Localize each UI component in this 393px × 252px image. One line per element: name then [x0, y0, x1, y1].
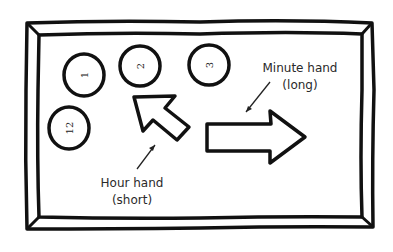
hour-hand-name: Hour hand [90, 175, 174, 192]
number-circle-12: 12 [49, 107, 89, 149]
number-label: 3 [204, 62, 215, 68]
hour-hand-pointer [137, 145, 155, 169]
minute-hand-note: (long) [252, 77, 348, 94]
minute-hand-name: Minute hand [252, 60, 348, 77]
hour-hand-label: Hour hand (short) [90, 175, 174, 209]
number-circle-2: 2 [120, 46, 160, 86]
number-circle-1: 1 [64, 54, 104, 96]
number-label: 2 [135, 63, 146, 69]
bevel-bottom-right [362, 217, 372, 226]
number-circle-3: 3 [189, 45, 229, 85]
bevel-bottom-left [28, 217, 39, 228]
bevel-top-left [28, 24, 39, 35]
number-label: 12 [64, 122, 75, 135]
number-label: 1 [79, 72, 90, 78]
diagram-canvas: 1 2 3 12 [0, 0, 393, 252]
minute-hand-arrow [207, 111, 305, 163]
hour-hand-note: (short) [90, 192, 174, 209]
minute-hand-label: Minute hand (long) [252, 60, 348, 94]
hour-hand-arrow [134, 96, 189, 140]
bevel-top-right [362, 24, 371, 34]
